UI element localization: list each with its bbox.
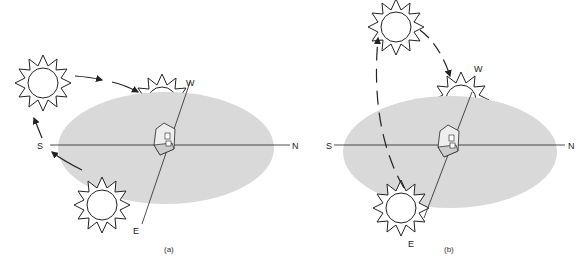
label-east: E xyxy=(408,239,414,249)
sun-path-diagram: S W E (a) N S N W E (b) xyxy=(0,0,581,267)
panel-a: S W E (a) N xyxy=(15,55,299,254)
label-south: S xyxy=(326,141,332,151)
house-icon xyxy=(438,125,459,157)
label-west: W xyxy=(186,78,195,88)
label-north: N xyxy=(292,141,299,151)
label-east: E xyxy=(133,226,139,236)
sun-path-arrow-2 xyxy=(34,118,42,138)
sun-icon-noon xyxy=(15,55,71,111)
label-south: S xyxy=(37,141,43,151)
label-west: W xyxy=(474,64,483,74)
caption-b: (b) xyxy=(444,245,454,254)
panel-b: S N W E (b) xyxy=(326,0,575,254)
sun-icon-noon-high xyxy=(368,0,424,55)
sun-path-arrow-3 xyxy=(75,76,102,80)
label-north: N xyxy=(568,141,575,151)
caption-a: (a) xyxy=(164,245,174,254)
sun-path-arrow-4 xyxy=(112,82,138,92)
sun-path-dashed-arc-descent xyxy=(420,30,450,76)
house-icon xyxy=(154,123,175,155)
